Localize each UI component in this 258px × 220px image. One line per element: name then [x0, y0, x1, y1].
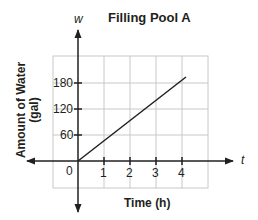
chart-title: Filling Pool A: [108, 10, 191, 25]
y-tick-60: 60: [60, 128, 73, 142]
y-axis-arrow-down-icon: [75, 204, 82, 213]
y-axis-title: Amount of Water (gal): [15, 50, 41, 170]
data-line-pool-a: [78, 77, 186, 161]
x-axis-arrow-right-icon: [225, 158, 234, 165]
x-tick-2: 2: [126, 166, 133, 180]
origin-label: 0: [66, 164, 73, 178]
y-variable-label: w: [74, 12, 83, 26]
y-tick-180: 180: [53, 76, 73, 90]
x-tick-3: 3: [152, 166, 159, 180]
y-tick-120: 120: [53, 102, 73, 116]
y-axis-title-line2: (gal): [28, 50, 41, 170]
y-axis-arrow-up-icon: [75, 29, 82, 38]
x-tick-4: 4: [178, 166, 185, 180]
x-tick-1: 1: [100, 166, 107, 180]
x-variable-label: t: [241, 153, 244, 167]
x-axis-title: Time (h): [124, 196, 170, 210]
